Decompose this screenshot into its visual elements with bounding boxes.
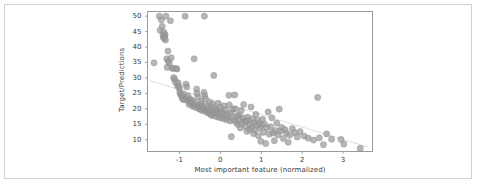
y-tick-label: 30	[126, 74, 142, 82]
y-tick-label: 10	[126, 136, 142, 144]
scatter-point	[232, 92, 238, 98]
x-tick-label: -1	[171, 156, 187, 164]
x-tick-label: 1	[253, 156, 269, 164]
y-tick-label: 20	[126, 105, 142, 113]
scatter-point	[253, 111, 259, 117]
x-tick-label: 3	[335, 156, 351, 164]
scatter-point	[228, 134, 234, 140]
scatter-point	[167, 18, 173, 24]
scatter-point	[357, 145, 363, 151]
scatter-point	[320, 142, 326, 148]
scatter-point	[265, 109, 271, 115]
y-tick-label: 40	[126, 43, 142, 51]
scatter-point	[274, 120, 280, 126]
scatter-point	[226, 92, 232, 98]
scatter-chart	[0, 0, 477, 187]
scatter-point	[310, 137, 316, 143]
scatter-point	[263, 140, 269, 146]
scatter-point	[191, 56, 197, 62]
scatter-point	[151, 60, 157, 66]
scatter-point	[271, 138, 277, 144]
x-tick-label: 2	[294, 156, 310, 164]
x-tick-label: 0	[212, 156, 228, 164]
scatter-point	[232, 106, 238, 112]
scatter-point	[168, 55, 174, 61]
scatter-point	[269, 115, 275, 121]
scatter-point	[248, 104, 254, 110]
scatter-point	[182, 13, 188, 19]
scatter-point	[316, 135, 322, 141]
y-tick-label: 50	[126, 12, 142, 20]
scatter-point	[285, 139, 291, 145]
scatter-point	[165, 48, 171, 54]
scatter-point	[174, 66, 180, 72]
scatter-point	[201, 13, 207, 19]
scatter-point	[255, 133, 261, 139]
scatter-point	[211, 72, 217, 78]
scatter-point	[163, 13, 169, 19]
y-tick-label: 45	[126, 28, 142, 36]
scatter-point	[241, 101, 247, 107]
scatter-point	[159, 23, 165, 29]
scatter-point	[341, 141, 347, 147]
y-tick-label: 15	[126, 120, 142, 128]
scatter-point	[324, 131, 330, 137]
scatter-point	[328, 136, 334, 142]
scatter-point	[276, 106, 282, 112]
y-tick-label: 25	[126, 89, 142, 97]
scatter-point	[184, 84, 190, 90]
scatter-point	[238, 108, 244, 114]
screenshot-root: Most important feature (normalized) Targ…	[0, 0, 477, 187]
scatter-point	[162, 37, 168, 43]
x-axis-label: Most important feature (normalized)	[147, 166, 373, 174]
y-tick-label: 35	[126, 58, 142, 66]
scatter-point	[315, 94, 321, 100]
